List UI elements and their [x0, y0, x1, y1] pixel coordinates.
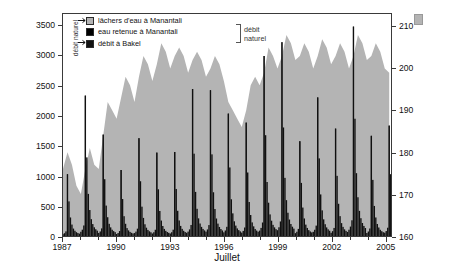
tick-mark-bottom	[152, 237, 153, 240]
discharge-bar	[369, 228, 370, 236]
discharge-bar	[329, 231, 330, 236]
discharge-bar	[305, 225, 306, 236]
left-tick-label: 3500	[36, 21, 55, 30]
discharge-bar	[216, 219, 217, 236]
discharge-bar	[232, 213, 233, 236]
discharge-bar	[324, 224, 325, 236]
discharge-bar	[65, 231, 66, 236]
discharge-bar	[387, 228, 388, 236]
tick-mark-bottom	[134, 237, 135, 240]
discharge-bar	[286, 200, 287, 236]
discharge-bar	[330, 233, 331, 236]
discharge-bar	[101, 228, 102, 236]
discharge-bar	[184, 232, 185, 236]
tick-mark-bottom	[98, 237, 99, 240]
discharge-bar	[274, 227, 275, 236]
discharge-bar	[253, 226, 254, 236]
left-tick-label: 0	[50, 233, 55, 242]
discharge-bar	[207, 229, 208, 236]
discharge-bar	[208, 225, 209, 236]
discharge-bar	[271, 221, 272, 236]
discharge-bar	[147, 230, 148, 236]
discharge-bar	[111, 230, 112, 236]
discharge-bar	[296, 232, 297, 236]
discharge-bar	[235, 226, 236, 236]
legend-bracket	[236, 24, 241, 43]
discharge-bar	[100, 231, 101, 236]
lake-level-color-swatch	[414, 14, 423, 25]
discharge-bar	[98, 233, 99, 236]
discharge-bar	[173, 230, 174, 236]
legend-item-debit-bakel: débit à Bakel	[86, 39, 182, 48]
discharge-bar	[269, 214, 270, 236]
right-tick-label: 190	[399, 106, 413, 115]
discharge-bar	[295, 233, 296, 236]
discharge-bar	[186, 233, 187, 236]
discharge-bar	[106, 206, 107, 236]
discharge-bar	[381, 231, 382, 236]
bracket-label-line2: naturel	[244, 34, 266, 43]
discharge-bar	[238, 230, 239, 236]
discharge-bar	[301, 183, 302, 236]
discharge-bar	[88, 194, 89, 236]
discharge-bar	[113, 231, 114, 236]
discharge-bar	[354, 119, 355, 236]
discharge-bar	[140, 181, 141, 236]
discharge-bar	[116, 234, 117, 236]
discharge-bar	[229, 167, 230, 236]
discharge-bar	[153, 232, 154, 236]
discharge-bar	[74, 231, 75, 236]
tick-mark-bottom	[296, 237, 297, 240]
discharge-bar	[199, 224, 200, 236]
discharge-bar	[380, 230, 381, 236]
tick-mark-bottom	[368, 237, 369, 240]
discharge-bar	[268, 203, 269, 236]
discharge-bar	[168, 233, 169, 236]
discharge-bar	[326, 227, 327, 236]
discharge-bar	[104, 179, 105, 236]
discharge-bar	[372, 180, 373, 236]
discharge-bar	[247, 172, 248, 236]
right-tick-label: 200	[399, 64, 413, 73]
discharge-bar	[117, 233, 118, 236]
discharge-bar	[131, 233, 132, 236]
discharge-bar	[250, 215, 251, 236]
discharge-bar	[234, 221, 235, 236]
discharge-bar	[226, 227, 227, 236]
discharge-bar	[237, 228, 238, 236]
discharge-bar	[241, 233, 242, 236]
tick-mark-left	[58, 116, 62, 117]
discharge-bar	[319, 158, 320, 236]
discharge-bar	[167, 232, 168, 236]
bracket-label-line1: débit	[244, 25, 266, 34]
discharge-bar	[345, 231, 346, 236]
discharge-bar	[123, 216, 124, 236]
tick-mark-bottom	[314, 237, 315, 240]
left-tick-label: 1500	[36, 142, 55, 151]
discharge-bar	[289, 220, 290, 236]
discharge-bar	[177, 211, 178, 236]
tick-mark-bottom	[206, 237, 207, 240]
annotation-arrow-bottom-icon	[78, 39, 86, 46]
discharge-bar	[70, 217, 71, 236]
discharge-bar	[217, 224, 218, 236]
legend-bracket-label: débit naturel	[244, 25, 266, 43]
discharge-bar	[125, 224, 126, 236]
tick-mark-left	[58, 25, 62, 26]
discharge-bar	[73, 229, 74, 236]
discharge-bar	[213, 192, 214, 236]
discharge-bar	[362, 223, 363, 236]
discharge-bar	[302, 208, 303, 236]
discharge-bar	[240, 231, 241, 236]
tick-mark-right	[392, 110, 396, 111]
discharge-bar	[336, 176, 337, 236]
discharge-bar	[290, 224, 291, 236]
discharge-bar	[193, 154, 194, 236]
discharge-bar	[107, 217, 108, 236]
discharge-bar	[342, 227, 343, 236]
x-tick-label: 1996	[214, 243, 233, 252]
discharge-bar	[293, 229, 294, 236]
x-tick-label: 1990	[106, 243, 125, 252]
discharge-bar	[384, 233, 385, 236]
discharge-bar	[94, 227, 95, 236]
